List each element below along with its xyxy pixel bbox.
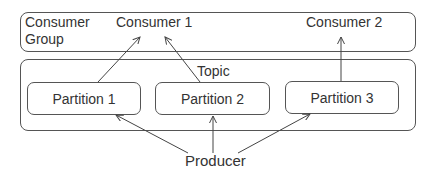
edge-partition-2-consumer-1 (165, 37, 200, 82)
edge-partition-1-consumer-1 (98, 37, 140, 82)
edge-producer-partition-1 (116, 115, 188, 153)
edge-producer-partition-3 (238, 114, 310, 153)
edge-arrows (0, 0, 424, 182)
